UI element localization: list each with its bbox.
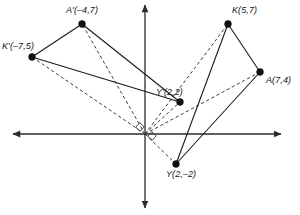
point-label-Kp: K'(–7,5) (2, 42, 34, 51)
triangle-segments (32, 24, 260, 164)
segment-Y-K (176, 24, 228, 164)
ray-origin-Kp (32, 57, 145, 134)
point-label-Y: Y(2,–2) (166, 170, 196, 179)
right-angle-marks (136, 123, 156, 140)
point-label-Ap: A'(–4,7) (66, 6, 98, 15)
segment-A-Y (176, 72, 260, 164)
point-label-Yp: Y'(2,2) (156, 88, 183, 97)
ray-origin-Ap (82, 24, 145, 134)
point-label-K: K(5,7) (232, 6, 257, 15)
dashed-rays (32, 24, 260, 164)
vertex-dot-K (225, 21, 232, 28)
segment-Kp-Ap (32, 24, 82, 57)
vertex-dot-Yp (177, 99, 184, 106)
right-angle-mark-lower-right (148, 132, 156, 140)
vertex-dot-A (257, 69, 264, 76)
vertex-dot-Kp (29, 54, 36, 61)
vertex-dot-Y (173, 161, 180, 168)
coordinate-plane (0, 0, 300, 215)
ray-origin-A (145, 72, 260, 134)
ray-origin-Yp (145, 102, 180, 134)
right-angle-mark-upper-left (136, 123, 144, 131)
axes (13, 5, 281, 208)
ray-origin-K (145, 24, 228, 134)
point-label-A: A(7,4) (266, 76, 291, 85)
vertex-dots (29, 21, 264, 168)
rotation-diagram: A'(–4,7) K(5,7) K'(–7,5) Y'(2,2) A(7,4) … (0, 0, 300, 215)
segment-K-A (228, 24, 260, 72)
vertex-dot-Ap (79, 21, 86, 28)
